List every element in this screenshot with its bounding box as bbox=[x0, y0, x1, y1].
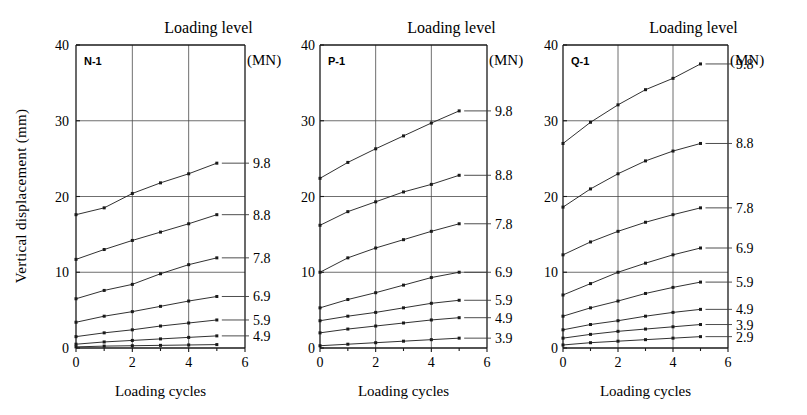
data-point-marker bbox=[617, 340, 620, 343]
ytick-label: 20 bbox=[544, 190, 558, 205]
xtick-label: 2 bbox=[129, 355, 136, 370]
series-line bbox=[76, 215, 217, 260]
data-point-marker bbox=[159, 325, 162, 328]
data-point-marker bbox=[617, 319, 620, 322]
series-line bbox=[563, 325, 701, 339]
data-point-marker bbox=[644, 328, 647, 331]
data-point-marker bbox=[458, 109, 461, 112]
loading-level-label: 6.9 bbox=[495, 265, 513, 280]
data-point-marker bbox=[562, 328, 565, 331]
data-point-marker bbox=[131, 310, 134, 313]
ytick-label: 0 bbox=[62, 341, 69, 356]
data-point-marker bbox=[75, 343, 78, 346]
series-line bbox=[563, 64, 701, 144]
data-point-marker bbox=[75, 258, 78, 261]
data-point-marker bbox=[617, 271, 620, 274]
data-point-marker bbox=[374, 200, 377, 203]
series-line bbox=[320, 318, 459, 333]
loading-level-label: 4.9 bbox=[253, 329, 271, 344]
data-point-marker bbox=[374, 247, 377, 250]
data-point-marker bbox=[131, 192, 134, 195]
data-point-marker bbox=[402, 134, 405, 137]
data-point-marker bbox=[644, 338, 647, 341]
data-point-marker bbox=[131, 239, 134, 242]
data-point-marker bbox=[699, 335, 702, 338]
data-point-marker bbox=[699, 281, 702, 284]
ytick-label: 0 bbox=[551, 341, 558, 356]
ytick-label: 0 bbox=[308, 341, 315, 356]
data-point-marker bbox=[699, 247, 702, 250]
series-line bbox=[76, 336, 217, 344]
data-point-marker bbox=[374, 147, 377, 150]
data-point-marker bbox=[402, 284, 405, 287]
ytick-label: 10 bbox=[55, 265, 69, 280]
series-line bbox=[320, 300, 459, 320]
data-point-marker bbox=[458, 271, 461, 274]
data-point-marker bbox=[215, 213, 218, 216]
data-point-marker bbox=[562, 253, 565, 256]
data-point-marker bbox=[699, 308, 702, 311]
data-point-marker bbox=[617, 172, 620, 175]
data-point-marker bbox=[430, 302, 433, 305]
data-point-marker bbox=[617, 103, 620, 106]
data-point-marker bbox=[430, 318, 433, 321]
xtick-label: 6 bbox=[484, 355, 491, 370]
data-point-marker bbox=[589, 282, 592, 285]
series-line bbox=[76, 163, 217, 215]
multi-panel-chart: 0246010203040N-19.88.87.86.95.94.9Loadin… bbox=[0, 0, 807, 415]
loading-level-unit: (MN) bbox=[489, 52, 523, 69]
data-point-marker bbox=[430, 338, 433, 341]
data-point-marker bbox=[131, 283, 134, 286]
data-point-marker bbox=[75, 321, 78, 324]
data-point-marker bbox=[430, 183, 433, 186]
data-point-marker bbox=[131, 339, 134, 342]
data-point-marker bbox=[159, 337, 162, 340]
loading-level-title: Loading level bbox=[649, 19, 738, 37]
data-point-marker bbox=[589, 333, 592, 336]
data-point-marker bbox=[672, 337, 675, 340]
data-point-marker bbox=[430, 122, 433, 125]
data-point-marker bbox=[103, 289, 106, 292]
data-point-marker bbox=[187, 343, 190, 346]
data-point-marker bbox=[215, 256, 218, 259]
data-point-marker bbox=[644, 88, 647, 91]
data-point-marker bbox=[562, 337, 565, 340]
data-point-marker bbox=[617, 330, 620, 333]
data-point-marker bbox=[187, 300, 190, 303]
loading-level-label: 9.8 bbox=[495, 104, 513, 119]
data-point-marker bbox=[617, 230, 620, 233]
data-point-marker bbox=[562, 293, 565, 296]
loading-level-label: 7.8 bbox=[736, 201, 754, 216]
loading-level-label: 9.8 bbox=[253, 156, 271, 171]
xtick-label: 4 bbox=[185, 355, 192, 370]
loading-level-title: Loading level bbox=[164, 19, 253, 37]
xtick-label: 4 bbox=[670, 355, 677, 370]
xtick-label: 2 bbox=[615, 355, 622, 370]
data-point-marker bbox=[159, 272, 162, 275]
series-line bbox=[320, 224, 459, 272]
data-point-marker bbox=[187, 322, 190, 325]
data-point-marker bbox=[75, 345, 78, 348]
data-point-marker bbox=[374, 325, 377, 328]
data-point-marker bbox=[672, 213, 675, 216]
loading-level-label: 3.9 bbox=[495, 331, 513, 346]
data-point-marker bbox=[672, 150, 675, 153]
ytick-label: 30 bbox=[301, 114, 315, 129]
data-point-marker bbox=[589, 121, 592, 124]
data-point-marker bbox=[159, 231, 162, 234]
panel-tag-p-1: P-1 bbox=[328, 55, 345, 67]
data-point-marker bbox=[346, 210, 349, 213]
data-point-marker bbox=[374, 341, 377, 344]
data-point-marker bbox=[187, 222, 190, 225]
series-line bbox=[563, 337, 701, 345]
loading-level-label: 5.9 bbox=[253, 313, 271, 328]
data-point-marker bbox=[644, 159, 647, 162]
data-point-marker bbox=[430, 276, 433, 279]
xtick-label: 2 bbox=[372, 355, 379, 370]
data-point-marker bbox=[402, 238, 405, 241]
series-line bbox=[563, 143, 701, 207]
data-point-marker bbox=[346, 315, 349, 318]
panel-n-1: 0246010203040N-19.88.87.86.95.94.9Loadin… bbox=[55, 19, 281, 399]
data-point-marker bbox=[644, 262, 647, 265]
data-point-marker bbox=[562, 142, 565, 145]
